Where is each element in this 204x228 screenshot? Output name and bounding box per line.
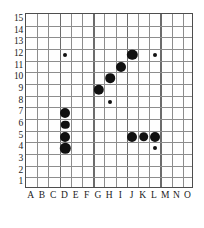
grid-line-horizontal xyxy=(26,49,192,50)
grid-line-horizontal xyxy=(26,166,192,167)
data-point xyxy=(94,85,104,95)
grid-line-horizontal xyxy=(26,26,192,27)
y-axis-tick-label: 12 xyxy=(5,49,23,59)
grid-line-horizontal xyxy=(26,154,192,155)
data-point xyxy=(153,53,157,57)
grid-line-vertical xyxy=(71,14,72,187)
grid-line-horizontal xyxy=(26,107,192,108)
grid-line-vertical xyxy=(82,14,83,187)
data-point xyxy=(116,62,126,72)
data-point xyxy=(61,121,69,129)
grid-line-horizontal xyxy=(26,119,192,120)
grid-line-horizontal xyxy=(26,84,192,85)
grid-line-horizontal xyxy=(26,131,192,132)
y-axis-tick-label: 5 xyxy=(5,131,23,141)
y-axis-tick-label: 2 xyxy=(5,166,23,176)
y-axis-tick-label: 14 xyxy=(5,26,23,36)
grid-line-vertical xyxy=(60,14,62,187)
y-axis-tick-label: 1 xyxy=(5,177,23,187)
data-point xyxy=(105,73,115,83)
grid-line-vertical xyxy=(183,14,184,187)
data-point xyxy=(108,100,112,104)
grid-line-horizontal xyxy=(26,37,192,38)
data-point xyxy=(150,132,160,142)
grid-line-vertical xyxy=(172,14,173,187)
data-point xyxy=(127,132,137,142)
y-axis-tick-label: 6 xyxy=(5,119,23,129)
y-axis-tick-label: 7 xyxy=(5,107,23,117)
data-point xyxy=(63,53,67,57)
scatter-plot-figure: 151413121110987654321 ABCDEFGHIJKLMNO xyxy=(0,0,204,228)
data-point xyxy=(139,132,149,142)
data-point xyxy=(153,146,157,150)
grid-line-vertical xyxy=(116,14,117,187)
plot-area xyxy=(25,13,193,188)
grid-line-vertical xyxy=(138,14,139,187)
grid-line-vertical xyxy=(104,14,105,187)
grid-line-horizontal xyxy=(26,61,192,62)
grid-line-vertical xyxy=(93,14,95,187)
y-axis-tick-label: 4 xyxy=(5,142,23,152)
y-axis-labels: 151413121110987654321 xyxy=(2,13,23,188)
grid-line-vertical xyxy=(48,14,49,187)
grid-line-vertical xyxy=(37,14,38,187)
data-point xyxy=(60,108,70,118)
grid-line-vertical xyxy=(160,14,162,187)
y-axis-tick-label: 10 xyxy=(5,72,23,82)
y-axis-tick-label: 3 xyxy=(5,154,23,164)
grid-line-horizontal xyxy=(26,177,192,178)
y-axis-tick-label: 8 xyxy=(5,96,23,106)
grid-line-horizontal xyxy=(26,96,192,97)
grid-line-vertical xyxy=(149,14,150,187)
x-axis-labels: ABCDEFGHIJKLMNO xyxy=(25,190,193,204)
grid-line-horizontal xyxy=(26,142,192,143)
y-axis-tick-label: 13 xyxy=(5,37,23,47)
y-axis-tick-label: 11 xyxy=(5,61,23,71)
y-axis-tick-label: 15 xyxy=(5,14,23,24)
data-point xyxy=(60,132,70,142)
data-point xyxy=(127,50,137,60)
data-point xyxy=(60,143,70,153)
x-axis-tick-label: O xyxy=(180,190,194,201)
grid-line-vertical xyxy=(127,14,129,187)
y-axis-tick-label: 9 xyxy=(5,84,23,94)
